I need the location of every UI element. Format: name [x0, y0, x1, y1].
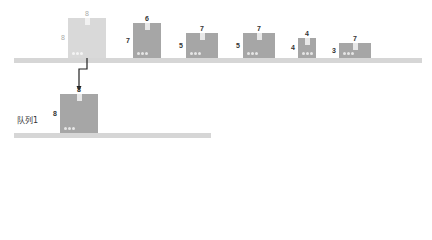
- box-tab: [77, 94, 82, 101]
- box-side-label: 8: [53, 110, 57, 118]
- queue-label: 队列1: [17, 114, 38, 125]
- queue-box: [60, 94, 98, 133]
- queue-shelf: [14, 133, 211, 138]
- box-top-label: 8: [77, 86, 81, 94]
- box-dots-icon: [64, 127, 75, 130]
